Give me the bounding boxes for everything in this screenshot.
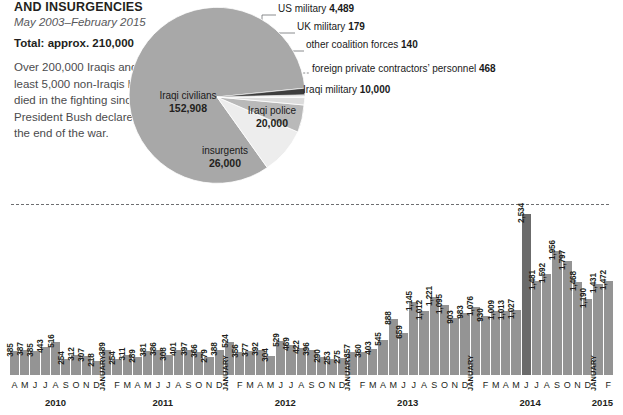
bar-value-label: 1,592 (538, 263, 547, 283)
bar-value-label: 356 (231, 345, 240, 358)
month-tick-label: S (184, 380, 193, 390)
pie-label-uk-military: UK military 179 (297, 21, 365, 33)
bar-column: 1,956 (552, 214, 561, 375)
month-tick-label: A (378, 380, 387, 390)
bar-value-label: 903 (446, 310, 455, 323)
bar: 903 (450, 318, 459, 375)
month-tick-label: N (450, 380, 459, 390)
month-tick-label: N (82, 380, 91, 390)
month-tick-label: S (307, 380, 316, 390)
bar-value-label: 1,012 (415, 300, 424, 320)
leader-label-value: 468 (479, 63, 496, 74)
month-tick-label: F (235, 380, 244, 390)
bar-value-label: 403 (364, 342, 373, 355)
bar: 659 (399, 333, 408, 375)
bar-value-label: 1,190 (579, 288, 588, 308)
month-tick-label: A (133, 380, 142, 390)
bar-column: 930 (481, 214, 490, 375)
month-tick-label: M (491, 380, 500, 390)
bar-column: 2,534 (522, 214, 531, 375)
year-label: 2014 (469, 397, 590, 413)
month-tick-label: O (440, 380, 449, 390)
bar-value-label: 386 (149, 343, 158, 356)
year-label: 2015 (592, 397, 613, 413)
bar-value-label: 1,095 (435, 294, 444, 314)
bar-value-label: 1,481 (528, 270, 537, 290)
leader-label-name: UK military (297, 21, 345, 32)
bar-value-label: 469 (282, 338, 291, 351)
bar-value-label: 366 (190, 344, 199, 357)
bar-column: 1,076JANUARY (471, 214, 480, 375)
month-tick-label: S (61, 380, 70, 390)
bar-value-label: 289 (128, 349, 137, 362)
bar: 308 (164, 355, 173, 375)
month-tick-label: O (317, 380, 326, 390)
bar-column: 1,431JANUARY (593, 214, 602, 375)
leader-label-name: foreign private contractors’ personnel (312, 63, 476, 74)
month-tick-label: S (430, 380, 439, 390)
month-tick-label: J (399, 380, 408, 390)
month-tick-label: A (297, 380, 306, 390)
bar-value-label: 308 (159, 348, 168, 361)
bar: 930 (481, 316, 490, 375)
bar-column: 1,009 (491, 214, 500, 375)
bar-value-label: 385 (6, 343, 15, 356)
bar-value-label: 377 (241, 343, 250, 356)
pie-label-us-military: US military 4,489 (278, 3, 354, 15)
bar-column: 1,592 (542, 214, 551, 375)
bar: 1,431JANUARY (593, 284, 602, 375)
month-tick-label: N (204, 380, 213, 390)
pie-label-iraqi-military: Iraqi military 10,000 (303, 84, 390, 96)
bar: 279 (204, 357, 213, 375)
bar-value-label: 1,797 (558, 250, 567, 270)
month-tick-label: N (573, 380, 582, 390)
month-tick-label: F (604, 380, 613, 390)
bar-value-label: 1,431 (589, 273, 598, 293)
bar-column: 1,190 (583, 214, 592, 375)
bar-value-label: 422 (292, 341, 301, 354)
month-tick-label: D (338, 380, 347, 390)
bar-value-label: 385 (26, 343, 35, 356)
month-tick-label: M (143, 380, 152, 390)
leader-label-value: 10,000 (360, 84, 391, 95)
leader-label-value: 140 (401, 39, 418, 50)
bar-value-label: 659 (395, 325, 404, 338)
leader-label-name: US military (278, 3, 326, 14)
year-label: 2012 (225, 397, 346, 413)
bar: 1,592 (542, 274, 551, 375)
bar-column: 443 (41, 214, 50, 375)
bar-value-label: 290 (313, 349, 322, 362)
pie-label-iraqi-civilians: Iraqi civilians 152,908 (142, 90, 234, 114)
bar-value-label: 1,145 (405, 291, 414, 311)
bar-column: 1,145 (409, 214, 418, 375)
bar-column: 1,027 (511, 214, 520, 375)
month-tick-label: M (245, 380, 254, 390)
month-tick-label: A (174, 380, 183, 390)
bar-value-label: 516 (47, 335, 56, 348)
bar-value-label: 1,027 (507, 299, 516, 319)
bar-value-label: 381 (139, 343, 148, 356)
bar-column: 1,472 (604, 214, 613, 375)
month-tick-label: A (51, 380, 60, 390)
pie-label-iraqi-police: Iraqi police 20,000 (234, 105, 310, 129)
bar-value-label: 360 (354, 344, 363, 357)
bar-column: 903 (450, 214, 459, 375)
month-tick-label: D (215, 380, 224, 390)
month-tick-label: A (10, 380, 19, 390)
bar-value-label: 1,076 (466, 296, 475, 316)
bar-column: 304 (266, 214, 275, 375)
leader-label-name: other coalition forces (306, 39, 398, 50)
bar-value-label: 279 (200, 350, 209, 363)
bar: 1,012 (419, 311, 428, 375)
bar: 304 (266, 356, 275, 375)
bar: 289 (133, 357, 142, 375)
bar-value-label: 524 (221, 334, 230, 347)
bar-value-label: 275 (333, 350, 342, 363)
month-tick-label: D (583, 380, 592, 390)
bar: 443 (41, 347, 50, 375)
bar-value-label: 312 (67, 348, 76, 361)
x-axis-year-labels: 201020112012201320142015 (10, 397, 613, 413)
month-tick-label: O (194, 380, 203, 390)
bar-value-label: 2,534 (517, 203, 526, 223)
month-tick-label: J (522, 380, 531, 390)
